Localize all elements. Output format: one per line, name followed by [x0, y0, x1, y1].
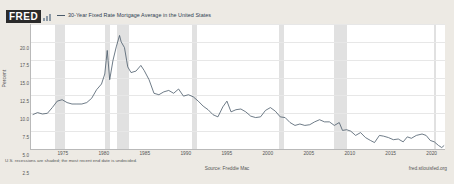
- fred-chart-page: FRED 30-Year Fixed Rate Mortgage Average…: [0, 0, 454, 184]
- x-tick-label: 2005: [303, 151, 314, 156]
- x-tick-label: 1995: [221, 151, 232, 156]
- chart-header: FRED 30-Year Fixed Rate Mortgage Average…: [0, 0, 454, 26]
- x-tick-label: 1975: [57, 151, 68, 156]
- y-tick-label: 10.0: [1, 117, 29, 122]
- x-tick-label: 1985: [139, 151, 150, 156]
- x-tick-label: 2010: [344, 151, 355, 156]
- x-tick-label: 1980: [98, 151, 109, 156]
- chart-legend: 30-Year Fixed Rate Mortgage Average in t…: [57, 12, 211, 18]
- series-line-group: [31, 24, 445, 149]
- y-tick-label: 2.5: [1, 171, 29, 176]
- x-tick-label: 1990: [180, 151, 191, 156]
- x-tick-label: 2020: [426, 151, 437, 156]
- legend-swatch: [57, 15, 65, 16]
- x-tick-label: 2015: [385, 151, 396, 156]
- fred-logo: FRED: [6, 10, 41, 23]
- y-tick-label: 7.5: [1, 135, 29, 140]
- y-tick-label: 20.0: [1, 46, 29, 51]
- gridline: [31, 149, 445, 150]
- plot-area: [30, 24, 445, 150]
- recession-footnote: U.S. recessions are shaded; the most rec…: [5, 158, 180, 164]
- legend-label: 30-Year Fixed Rate Mortgage Average in t…: [68, 12, 211, 18]
- x-tick-label: 2000: [262, 151, 273, 156]
- fred-url: fred.stlouisfed.org: [409, 166, 447, 171]
- y-tick-label: 12.5: [1, 99, 29, 104]
- bar-chart-icon: [43, 13, 52, 21]
- y-axis: Percent 2.55.07.510.012.515.017.520.0: [0, 24, 29, 150]
- y-tick-label: 15.0: [1, 81, 29, 86]
- y-tick-label: 5.0: [1, 153, 29, 158]
- series-line: [33, 35, 445, 147]
- source-label: Source: Freddie Mac: [0, 166, 454, 171]
- y-tick-label: 17.5: [1, 63, 29, 68]
